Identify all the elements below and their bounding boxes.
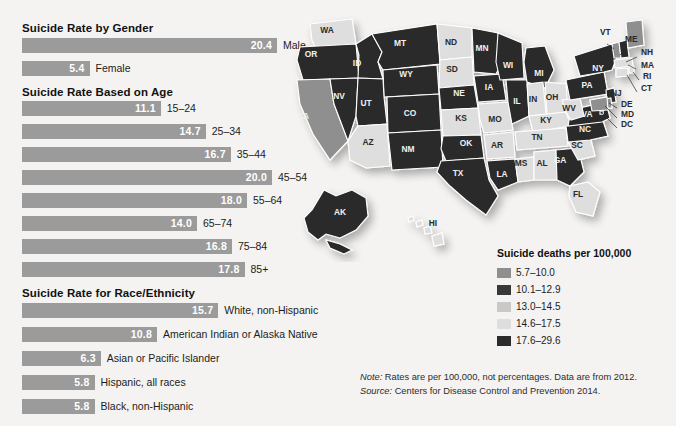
state-FL <box>569 182 600 216</box>
map-label-ID: ID <box>353 58 361 68</box>
notes-block: Note: Rates are per 100,000, not percent… <box>360 372 676 400</box>
map-label-NM: NM <box>401 144 414 154</box>
map-label-WI: WI <box>503 60 513 70</box>
map-label-IL: IL <box>513 96 520 106</box>
state-AK-tail <box>326 240 352 254</box>
map-label-FL: FL <box>573 189 583 199</box>
bar-white-non-hispanic: 15.7 <box>22 303 218 318</box>
map-label-TX: TX <box>453 168 464 178</box>
bar-label: 35–44 <box>237 148 266 160</box>
legend-item-2: 13.0–14.5 <box>497 299 676 314</box>
map-label-CA: CA <box>297 111 309 121</box>
legend-swatch-icon <box>497 268 511 278</box>
map-callout-MD: MD <box>621 109 634 119</box>
bar-age-45-54: 20.0 <box>22 170 272 185</box>
bar-value: 5.8 <box>74 401 89 412</box>
section-title-race: Suicide Rate for Race/Ethnicity <box>22 287 195 299</box>
state-CT <box>616 68 628 77</box>
bar-label: White, non-Hispanic <box>224 304 318 316</box>
source-prefix: Source: <box>360 386 392 396</box>
map-label-SD: SD <box>446 64 458 74</box>
legend-label: 10.1–12.9 <box>516 284 561 295</box>
note-prefix: Note: <box>360 372 382 382</box>
bar-row-asian-pacific: 6.3 Asian or Pacific Islander <box>22 351 321 366</box>
map-label-NY: NY <box>592 63 604 73</box>
bar-label: American Indian or Alaska Native <box>163 328 318 340</box>
bar-row-hispanic: 5.8 Hispanic, all races <box>22 375 315 390</box>
map-state-shapes <box>297 19 644 254</box>
state-HI-b <box>416 220 423 227</box>
map-callout-CT: CT <box>641 83 653 93</box>
bar-label: 25–34 <box>212 125 241 137</box>
map-label-AK: AK <box>334 207 346 217</box>
bar-row-white: 15.7 White, non-Hispanic <box>22 303 438 318</box>
map-label-NC: NC <box>579 124 591 134</box>
bar-label-female: Female <box>96 62 131 74</box>
bar-age-85plus: 17.8 <box>22 262 245 277</box>
section-title-gender: Suicide Rate by Gender <box>22 22 153 34</box>
bar-label: 75–84 <box>238 240 267 252</box>
bar-value-female: 5.4 <box>69 63 84 74</box>
map-label-CO: CO <box>404 108 417 118</box>
map-label-KY: KY <box>540 115 552 125</box>
map-label-UT: UT <box>360 98 372 108</box>
map-label-WY: WY <box>399 69 413 79</box>
map-label-AZ: AZ <box>362 137 373 147</box>
legend-swatch-icon <box>497 285 511 295</box>
state-MD <box>590 97 608 111</box>
state-NM <box>388 130 443 170</box>
state-HI-a <box>408 216 414 222</box>
map-callout-NJ: NJ <box>611 88 622 98</box>
bar-value: 17.8 <box>218 264 239 275</box>
bar-label: 85+ <box>251 263 269 275</box>
map-label-MS: MS <box>515 158 528 168</box>
bar-row-american-indian: 10.8 American Indian or Alaska Native <box>22 327 377 342</box>
bar-age-65-74: 14.0 <box>22 216 197 231</box>
bar-female: 5.4 <box>22 61 90 76</box>
map-callout-ME: ME <box>625 34 638 44</box>
bar-age-55-64: 18.0 <box>22 193 247 208</box>
map-callout-DC: DC <box>621 119 633 129</box>
bar-asian-pacific-islander: 6.3 <box>22 351 101 366</box>
us-choropleth-map: WAORCANVIDMTWYUTCOAZNMNDSDNEKSOKTXMNIAMO… <box>268 0 676 262</box>
bar-male: 20.4 <box>22 38 277 53</box>
map-label-OK: OK <box>460 138 473 148</box>
map-label-MI: MI <box>534 68 543 78</box>
bar-row-age-85plus: 17.8 85+ <box>22 262 465 277</box>
map-label-IA: IA <box>485 82 493 92</box>
state-MI <box>524 46 554 88</box>
section-title-age: Suicide Rate Based on Age <box>22 86 173 98</box>
bar-label: Black, non-Hispanic <box>101 400 194 412</box>
bar-label: 65–74 <box>203 217 232 229</box>
bar-age-15-24: 11.1 <box>22 101 161 116</box>
bar-row-female: 5.4 Female <box>22 61 310 76</box>
map-label-VA: VA <box>581 109 592 119</box>
bar-value: 14.0 <box>171 218 192 229</box>
map-label-MT: MT <box>394 38 407 48</box>
map-callout-DE: DE <box>621 99 633 109</box>
map-label-GA: GA <box>554 155 567 165</box>
map-label-WV: WV <box>562 103 576 113</box>
bar-value: 15.7 <box>192 305 213 316</box>
legend-label: 17.6–29.6 <box>516 335 561 346</box>
map-callout-NH: NH <box>641 47 653 57</box>
bar-value: 10.8 <box>131 329 152 340</box>
map-label-TN: TN <box>531 132 542 142</box>
legend-swatch-icon <box>497 319 511 329</box>
bar-age-35-44: 16.7 <box>22 147 231 162</box>
map-label-AR: AR <box>491 140 503 150</box>
map-label-KS: KS <box>455 113 467 123</box>
bar-label: 15–24 <box>167 102 196 114</box>
map-label-NV: NV <box>333 91 345 101</box>
map-label-AL: AL <box>536 158 547 168</box>
legend-label: 5.7–10.0 <box>516 267 555 278</box>
map-label-ND: ND <box>445 37 457 47</box>
legend-swatch-icon <box>497 302 511 312</box>
source-text: Centers for Disease Control and Preventi… <box>392 386 600 396</box>
legend-item-1: 10.1–12.9 <box>497 282 676 297</box>
legend-item-3: 14.6–17.5 <box>497 316 676 331</box>
map-label-SC: SC <box>571 140 583 150</box>
bar-value: 5.8 <box>74 377 89 388</box>
legend-item-4: 17.6–29.6 <box>497 333 676 348</box>
map-label-MO: MO <box>488 114 502 124</box>
